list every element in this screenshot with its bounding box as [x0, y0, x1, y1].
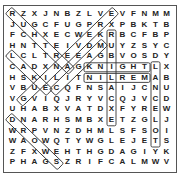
grid-cell[interactable]: X [40, 30, 51, 41]
grid-cell[interactable]: P [117, 20, 128, 31]
grid-cell[interactable]: H [7, 73, 18, 84]
grid-cell[interactable]: E [40, 83, 51, 94]
grid-cell[interactable]: L [150, 115, 161, 126]
grid-cell[interactable]: C [18, 30, 29, 41]
grid-cell[interactable]: M [95, 126, 106, 137]
grid-cell[interactable]: O [150, 126, 161, 137]
grid-cell[interactable]: N [51, 62, 62, 73]
grid-cell[interactable]: M [95, 41, 106, 52]
grid-cell[interactable]: H [62, 147, 73, 158]
grid-cell[interactable]: T [84, 104, 95, 115]
grid-cell[interactable]: T [117, 115, 128, 126]
grid-cell[interactable]: B [40, 104, 51, 115]
grid-cell[interactable]: T [139, 62, 150, 73]
grid-cell[interactable]: S [62, 115, 73, 126]
grid-cell[interactable]: G [18, 94, 29, 105]
grid-cell[interactable]: D [161, 94, 172, 105]
grid-cell[interactable]: E [84, 30, 95, 41]
grid-cell[interactable]: S [117, 126, 128, 137]
grid-cell[interactable]: X [106, 104, 117, 115]
grid-cell[interactable]: C [150, 94, 161, 105]
grid-cell[interactable]: D [95, 104, 106, 115]
grid-cell[interactable]: M [139, 73, 150, 84]
grid-cell[interactable]: I [161, 126, 172, 137]
grid-cell[interactable]: Z [62, 126, 73, 137]
grid-cell[interactable]: Q [51, 94, 62, 105]
grid-cell[interactable]: Y [128, 104, 139, 115]
grid-cell[interactable]: O [128, 51, 139, 62]
grid-cell[interactable]: X [40, 62, 51, 73]
grid-cell[interactable]: J [7, 20, 18, 31]
grid-cell[interactable]: R [139, 104, 150, 115]
grid-cell[interactable]: L [106, 136, 117, 147]
grid-cell[interactable]: P [29, 126, 40, 137]
grid-cell[interactable]: S [51, 157, 62, 168]
grid-cell[interactable]: V [29, 94, 40, 105]
grid-cell[interactable]: P [84, 20, 95, 31]
grid-cell[interactable]: E [128, 73, 139, 84]
grid-cell[interactable]: N [51, 9, 62, 20]
grid-cell[interactable]: A [18, 62, 29, 73]
grid-cell[interactable]: C [62, 30, 73, 41]
grid-cell[interactable]: K [95, 30, 106, 41]
grid-cell[interactable]: V [117, 9, 128, 20]
grid-cell[interactable]: A [18, 136, 29, 147]
grid-cell[interactable]: V [95, 9, 106, 20]
grid-cell[interactable]: Y [84, 94, 95, 105]
grid-cell[interactable]: N [139, 9, 150, 20]
grid-cell[interactable]: Q [62, 83, 73, 94]
grid-cell[interactable]: C [128, 30, 139, 41]
grid-cell[interactable]: G [139, 115, 150, 126]
grid-cell[interactable]: N [18, 41, 29, 52]
grid-cell[interactable]: R [40, 115, 51, 126]
grid-cell[interactable]: F [139, 30, 150, 41]
grid-cell[interactable]: B [84, 115, 95, 126]
grid-cell[interactable]: I [40, 94, 51, 105]
grid-cell[interactable]: T [40, 51, 51, 62]
grid-cell[interactable]: U [29, 83, 40, 94]
grid-cell[interactable]: S [18, 73, 29, 84]
grid-cell[interactable]: H [18, 104, 29, 115]
grid-cell[interactable]: W [40, 147, 51, 158]
grid-cell[interactable]: X [106, 20, 117, 31]
grid-cell[interactable]: I [84, 157, 95, 168]
grid-cell[interactable]: H [7, 41, 18, 52]
grid-cell[interactable]: K [29, 73, 40, 84]
grid-cell[interactable]: U [106, 41, 117, 52]
grid-cell[interactable]: L [106, 73, 117, 84]
grid-cell[interactable]: W [40, 136, 51, 147]
grid-cell[interactable]: F [7, 30, 18, 41]
grid-cell[interactable]: U [18, 20, 29, 31]
grid-cell[interactable]: V [139, 94, 150, 105]
grid-cell[interactable]: W [84, 136, 95, 147]
grid-cell[interactable]: G [95, 136, 106, 147]
grid-cell[interactable]: D [150, 51, 161, 62]
grid-cell[interactable]: B [150, 30, 161, 41]
grid-cell[interactable]: L [106, 126, 117, 137]
grid-cell[interactable]: D [106, 147, 117, 158]
grid-cell[interactable]: E [139, 136, 150, 147]
grid-cell[interactable]: R [73, 94, 84, 105]
grid-cell[interactable]: A [150, 73, 161, 84]
grid-cell[interactable]: T [73, 73, 84, 84]
grid-cell[interactable]: C [40, 20, 51, 31]
grid-cell[interactable]: S [161, 136, 172, 147]
grid-cell[interactable]: U [161, 83, 172, 94]
grid-cell[interactable]: C [106, 94, 117, 105]
grid-cell[interactable]: S [139, 126, 150, 137]
grid-cell[interactable]: A [84, 51, 95, 62]
grid-cell[interactable]: G [95, 147, 106, 158]
grid-cell[interactable]: E [150, 104, 161, 115]
grid-cell[interactable]: L [51, 73, 62, 84]
grid-cell[interactable]: X [51, 104, 62, 115]
grid-cell[interactable]: E [106, 9, 117, 20]
grid-cell[interactable]: W [73, 30, 84, 41]
grid-cell[interactable]: R [106, 30, 117, 41]
grid-cell[interactable]: K [139, 20, 150, 31]
grid-cell[interactable]: F [18, 147, 29, 158]
grid-cell[interactable]: E [117, 136, 128, 147]
grid-cell[interactable]: P [7, 157, 18, 168]
grid-cell[interactable]: F [51, 20, 62, 31]
grid-cell[interactable]: V [7, 94, 18, 105]
grid-cell[interactable]: S [139, 51, 150, 62]
